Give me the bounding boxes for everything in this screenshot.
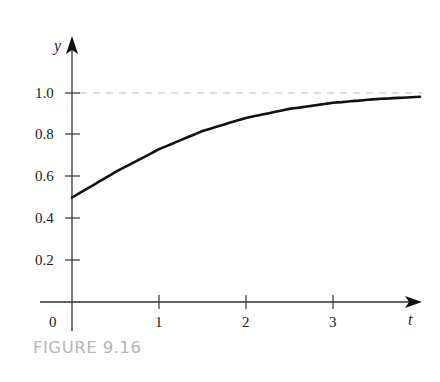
svg-text:0.6: 0.6 (35, 168, 54, 184)
x-axis-label: t (408, 311, 413, 328)
data-curve (72, 97, 420, 198)
svg-text:0: 0 (49, 314, 57, 330)
svg-text:1: 1 (155, 314, 163, 330)
chart: y t 1.0 0.8 0.6 0.4 0.2 0 1 2 3 (0, 0, 440, 382)
svg-text:0.2: 0.2 (35, 252, 54, 268)
svg-text:1.0: 1.0 (35, 85, 54, 101)
svg-text:2: 2 (242, 314, 250, 330)
x-tick-labels: 0 1 2 3 (49, 314, 337, 330)
svg-text:0.4: 0.4 (35, 210, 54, 226)
figure-caption: FIGURE 9.16 (33, 338, 142, 357)
svg-text:0.8: 0.8 (35, 126, 54, 142)
y-axis-label: y (52, 37, 62, 55)
y-tick-labels: 1.0 0.8 0.6 0.4 0.2 (35, 85, 54, 268)
svg-text:3: 3 (329, 314, 337, 330)
